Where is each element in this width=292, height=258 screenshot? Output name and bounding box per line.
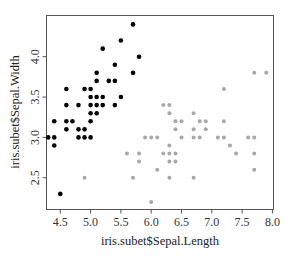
data-point-virginica: [173, 152, 177, 156]
data-point-setosa: [70, 119, 75, 124]
data-point-virginica: [149, 135, 153, 139]
data-point-setosa: [113, 79, 118, 84]
data-point-setosa: [100, 46, 105, 51]
data-point-setosa: [88, 87, 93, 92]
data-point-virginica: [167, 103, 171, 107]
data-point-virginica: [161, 152, 165, 156]
x-axis: 4.55.05.56.06.57.07.58.0: [53, 210, 280, 229]
data-point-setosa: [76, 103, 81, 108]
data-point-virginica: [173, 160, 177, 164]
data-point-setosa: [113, 62, 118, 67]
data-point-virginica: [125, 152, 129, 156]
data-point-virginica: [234, 152, 238, 156]
data-point-virginica: [252, 152, 256, 156]
data-point-setosa: [52, 135, 57, 140]
data-point-setosa: [82, 135, 87, 140]
x-tick-label: 6.5: [174, 215, 189, 229]
x-axis-title: iris.subet$Sepal.Length: [101, 234, 220, 248]
data-point-virginica: [246, 135, 250, 139]
data-point-setosa: [58, 192, 63, 197]
data-point-virginica: [198, 119, 202, 123]
data-point-setosa: [64, 87, 69, 92]
y-tick-label: 3.0: [28, 130, 42, 145]
data-point-virginica: [228, 143, 232, 147]
data-point-virginica: [222, 119, 226, 123]
data-point-setosa: [119, 95, 124, 100]
data-point-virginica: [149, 200, 153, 204]
x-tick-label: 7.0: [204, 215, 219, 229]
data-point-virginica: [155, 168, 159, 172]
y-axis: 2.53.03.54.0: [28, 49, 47, 185]
data-point-virginica: [198, 135, 202, 139]
data-point-setosa: [88, 103, 93, 108]
data-point-virginica: [192, 176, 196, 180]
data-point-setosa: [137, 54, 142, 59]
data-point-virginica: [173, 127, 177, 131]
data-point-virginica: [143, 135, 147, 139]
data-point-setosa: [88, 135, 93, 140]
data-point-virginica: [161, 103, 165, 107]
data-point-virginica: [216, 135, 220, 139]
y-tick-label: 4.0: [28, 49, 42, 64]
data-point-setosa: [100, 95, 105, 100]
data-point-virginica: [192, 135, 196, 139]
scatter-plot: 4.55.05.56.06.57.07.58.0 2.53.03.54.0 ir…: [0, 0, 292, 258]
y-axis-title: iris.subet$Sepal.Width: [8, 55, 22, 169]
data-point-setosa: [64, 119, 69, 124]
data-point-setosa: [88, 119, 93, 124]
data-point-virginica: [167, 111, 171, 115]
data-point-setosa: [94, 103, 99, 108]
data-point-setosa: [131, 71, 136, 76]
data-point-virginica: [167, 143, 171, 147]
data-points: [46, 22, 268, 204]
data-point-virginica: [204, 127, 208, 131]
data-point-virginica: [131, 176, 135, 180]
x-tick-label: 8.0: [265, 215, 280, 229]
data-point-virginica: [264, 71, 268, 75]
data-point-setosa: [46, 135, 51, 140]
y-tick-label: 3.5: [28, 90, 42, 105]
data-point-setosa: [94, 95, 99, 100]
data-point-setosa: [82, 87, 87, 92]
x-tick-label: 5.0: [83, 215, 98, 229]
data-point-virginica: [222, 87, 226, 91]
data-point-setosa: [64, 127, 69, 132]
data-point-setosa: [76, 135, 81, 140]
x-tick-label: 4.5: [53, 215, 68, 229]
data-point-setosa: [88, 95, 93, 100]
data-point-virginica: [173, 119, 177, 123]
data-point-virginica: [180, 119, 184, 123]
data-point-virginica: [252, 135, 256, 139]
data-point-setosa: [106, 79, 111, 84]
data-point-virginica: [137, 152, 141, 156]
data-point-virginica: [204, 119, 208, 123]
data-point-virginica: [180, 135, 184, 139]
data-point-setosa: [52, 143, 57, 148]
data-point-virginica: [252, 168, 256, 172]
data-point-setosa: [119, 38, 124, 43]
data-point-virginica: [192, 127, 196, 131]
data-point-setosa: [113, 103, 118, 108]
data-point-setosa: [52, 119, 57, 124]
data-point-virginica: [222, 135, 226, 139]
data-point-virginica: [192, 111, 196, 115]
data-point-virginica: [167, 160, 171, 164]
data-point-setosa: [88, 111, 93, 116]
plot-frame: [47, 16, 274, 210]
data-point-setosa: [76, 127, 81, 132]
data-point-setosa: [94, 71, 99, 76]
data-point-virginica: [167, 176, 171, 180]
data-point-setosa: [64, 103, 69, 108]
x-tick-label: 6.0: [144, 215, 159, 229]
x-tick-label: 5.5: [113, 215, 128, 229]
data-point-setosa: [131, 22, 136, 27]
data-point-virginica: [83, 176, 87, 180]
data-point-setosa: [82, 127, 87, 132]
data-point-virginica: [167, 152, 171, 156]
data-point-setosa: [94, 79, 99, 84]
data-point-setosa: [94, 111, 99, 116]
data-point-virginica: [155, 135, 159, 139]
data-point-setosa: [100, 103, 105, 108]
y-tick-label: 2.5: [28, 170, 42, 185]
data-point-virginica: [252, 71, 256, 75]
